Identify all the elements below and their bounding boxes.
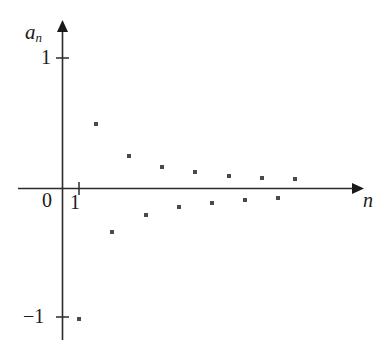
data-point (193, 170, 197, 174)
data-point (243, 198, 247, 202)
data-point (210, 201, 214, 205)
data-point (177, 205, 181, 209)
x-tick-label-one: 1 (70, 192, 80, 212)
plot-axes-svg (0, 0, 389, 351)
x-axis-label: n (363, 190, 373, 210)
y-tick-label-one: 1 (41, 47, 51, 67)
data-point (276, 196, 280, 200)
data-point (77, 317, 81, 321)
sequence-scatter-figure: an n 1 0 1 −1 (0, 0, 389, 351)
data-point (110, 230, 114, 234)
data-point (94, 122, 98, 126)
y-axis-label: an (25, 22, 42, 44)
tick-marks (56, 58, 79, 317)
y-axis-label-base: a (25, 20, 36, 44)
data-point (227, 174, 231, 178)
y-tick-label-negative-one: −1 (23, 306, 44, 326)
data-point (260, 176, 264, 180)
origin-label: 0 (42, 190, 52, 210)
data-point (127, 154, 131, 158)
y-axis-label-subscript: n (36, 30, 43, 45)
data-point (293, 177, 297, 181)
y-axis (57, 20, 68, 340)
data-point (160, 165, 164, 169)
data-point (144, 213, 148, 217)
